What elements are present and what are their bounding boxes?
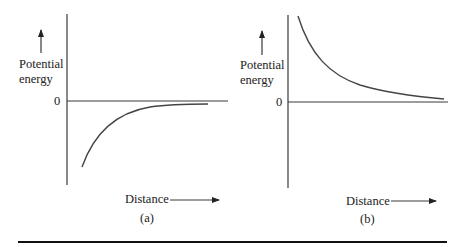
y-axis-label-line1: Potential bbox=[19, 57, 64, 71]
panel-caption: (b) bbox=[360, 212, 375, 226]
y-axis-label-line1: Potential bbox=[240, 58, 285, 72]
x-axis-label: Distance bbox=[125, 192, 169, 206]
potential-energy-figure: Potential energy 0 Distance (a) Potentia… bbox=[0, 0, 467, 247]
y-axis-label-line2: energy bbox=[19, 72, 54, 86]
zero-label: 0 bbox=[276, 95, 282, 109]
panel-b: Potential energy 0 Distance (b) bbox=[240, 15, 448, 226]
repulsive-curve bbox=[298, 16, 444, 99]
y-axis-label-line2: energy bbox=[240, 73, 275, 87]
zero-label: 0 bbox=[54, 94, 60, 108]
x-axis-label: Distance bbox=[346, 194, 390, 208]
panel-a: Potential energy 0 Distance (a) bbox=[19, 14, 228, 225]
attractive-curve bbox=[82, 104, 208, 167]
panel-caption: (a) bbox=[140, 211, 154, 225]
